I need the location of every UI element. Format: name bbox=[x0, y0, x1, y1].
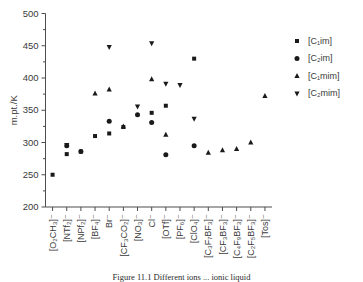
data-point bbox=[150, 111, 154, 115]
data-points bbox=[51, 41, 268, 177]
x-tick-label: [C₂F₅BF₃]⁻ bbox=[246, 214, 256, 258]
series-Cmim bbox=[64, 41, 197, 148]
legend-marker bbox=[295, 39, 299, 43]
data-point bbox=[163, 82, 168, 87]
data-point bbox=[51, 173, 55, 177]
x-tick-label: Cl⁻ bbox=[147, 214, 157, 228]
data-point bbox=[163, 152, 168, 157]
data-point bbox=[93, 134, 97, 138]
x-tick-label: [CF₃BF₃]⁻ bbox=[218, 214, 228, 255]
data-point bbox=[107, 87, 112, 92]
x-tick-label: [ClO₄]⁻ bbox=[189, 214, 199, 243]
data-point bbox=[107, 45, 112, 50]
data-point bbox=[192, 143, 197, 148]
y-tick-label: 400 bbox=[23, 72, 39, 83]
x-tick-label: Br⁻ bbox=[104, 214, 114, 228]
legend-label: [C₁im] bbox=[308, 36, 332, 46]
x-tick-label: [PF₆]⁻ bbox=[175, 214, 185, 239]
data-point bbox=[65, 152, 69, 156]
legend-label: [C₁mim] bbox=[308, 71, 340, 81]
y-axis-ticks: 200250300350400450500 bbox=[23, 8, 46, 213]
legend-label: [C₂im] bbox=[308, 53, 333, 63]
legend-marker bbox=[294, 73, 299, 78]
data-point bbox=[149, 120, 154, 125]
data-point bbox=[92, 90, 97, 95]
data-point bbox=[78, 149, 83, 154]
data-point bbox=[107, 119, 112, 124]
figure-caption: Figure 11.1 Different ions ... ionic liq… bbox=[0, 272, 363, 282]
axis-lines bbox=[46, 14, 273, 208]
y-tick-label: 300 bbox=[23, 137, 39, 148]
data-point bbox=[135, 104, 140, 109]
data-point bbox=[248, 140, 253, 145]
data-point bbox=[164, 104, 168, 108]
y-axis-title-text: m.pt./K bbox=[8, 95, 19, 126]
y-tick-label: 500 bbox=[23, 8, 39, 19]
data-point bbox=[177, 83, 182, 88]
x-tick-label: [C₄F₉BF₃]⁻ bbox=[232, 214, 242, 258]
data-point bbox=[192, 117, 197, 122]
data-point bbox=[192, 57, 196, 61]
x-tick-label: [Tos]⁻ bbox=[260, 214, 270, 238]
legend-marker bbox=[294, 92, 299, 97]
legend: [C₁im][C₂im][C₁mim][C₂mim] bbox=[294, 36, 340, 99]
y-tick-label: 250 bbox=[23, 169, 39, 180]
y-axis-title: m.pt./K bbox=[8, 95, 19, 126]
x-tick-label: [BF₄]⁻ bbox=[90, 214, 100, 239]
series-Cim bbox=[51, 57, 197, 177]
x-tick-label: [O₂CH₃]⁻ bbox=[48, 214, 58, 251]
x-axis-ticks: [O₂CH₃]⁻[NTf₂]⁻[NPf₂]⁻[BF₄]⁻Br⁻[CF₃CO₂]⁻… bbox=[48, 207, 270, 258]
data-point bbox=[163, 132, 168, 137]
x-tick-label: [NO₃]⁻ bbox=[133, 214, 143, 241]
y-tick-label: 200 bbox=[23, 201, 39, 212]
series-Cim bbox=[64, 112, 196, 157]
data-point bbox=[234, 146, 239, 151]
legend-marker bbox=[295, 56, 300, 61]
data-point bbox=[135, 112, 140, 117]
y-tick-label: 350 bbox=[23, 104, 39, 115]
data-point bbox=[149, 76, 154, 81]
x-tick-label: [C₃F₇BF₃]⁻ bbox=[203, 214, 213, 258]
x-tick-label: [NPf₂]⁻ bbox=[76, 214, 86, 243]
data-point bbox=[149, 41, 154, 46]
x-tick-label: [OTf]⁻ bbox=[161, 214, 171, 239]
axes bbox=[46, 14, 273, 208]
x-tick-label: [NTf₂]⁻ bbox=[62, 214, 72, 242]
x-tick-label: [CF₃CO₂]⁻ bbox=[119, 214, 129, 257]
data-point bbox=[262, 93, 267, 98]
data-point bbox=[220, 147, 225, 152]
legend-label: [C₂mim] bbox=[308, 88, 340, 98]
data-point bbox=[206, 150, 211, 155]
y-tick-label: 450 bbox=[23, 40, 39, 51]
data-point bbox=[107, 131, 111, 135]
